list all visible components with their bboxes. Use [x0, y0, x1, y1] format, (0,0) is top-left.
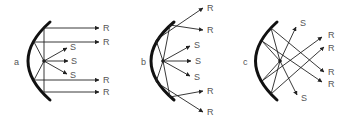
label-r: R	[207, 3, 214, 13]
panel-c: c R R R R S S	[243, 18, 335, 103]
label-r: R	[328, 43, 335, 53]
label-r: R	[103, 75, 110, 85]
source-ray	[280, 61, 297, 95]
source-ray	[163, 61, 190, 76]
reflected-ray	[156, 8, 203, 40]
source-ray	[44, 61, 67, 74]
panel-a: a R R R R S S S	[14, 22, 110, 100]
label-s: S	[195, 56, 201, 66]
label-r: R	[207, 86, 214, 96]
reflected-ray	[271, 47, 324, 94]
source-ray	[44, 48, 67, 61]
source-ray	[163, 46, 190, 61]
label-r: R	[103, 23, 110, 33]
label-r: R	[103, 37, 110, 47]
label-r: R	[103, 87, 110, 97]
label-r: R	[328, 67, 335, 77]
reflector-diagram: a R R R R S S S b	[0, 0, 348, 117]
label-s: S	[194, 72, 200, 82]
parabolic-mirror-c	[256, 22, 278, 100]
panel-label-c: c	[243, 57, 248, 67]
label-s: S	[194, 40, 200, 50]
reflected-ray	[262, 37, 322, 81]
label-s: S	[301, 93, 307, 103]
source-ray	[280, 27, 296, 61]
panel-label-a: a	[14, 57, 19, 67]
label-s: S	[70, 42, 76, 52]
label-s: S	[71, 56, 77, 66]
label-r: R	[328, 30, 335, 40]
label-s: S	[300, 18, 306, 28]
label-r: R	[207, 25, 214, 35]
panel-b: b R R R R S S S	[141, 3, 214, 117]
reflected-ray	[156, 82, 203, 112]
label-r: R	[207, 107, 214, 117]
panel-label-b: b	[141, 57, 146, 67]
label-s: S	[70, 70, 76, 80]
label-r: R	[328, 79, 335, 89]
